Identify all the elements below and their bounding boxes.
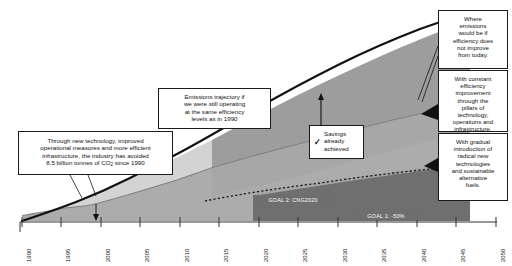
goal-band-50-percent: GOAL 1: -50%	[352, 211, 420, 220]
x-tick-2050: 2050	[500, 249, 506, 262]
callout-savings-achieved-line1: Through new technology, improved	[22, 137, 169, 144]
leader-achieved-1	[70, 175, 82, 198]
callout-savings-line3: achieved	[324, 145, 360, 152]
callout-r3-line6: alternative	[442, 174, 504, 181]
callout-r1-line4: efficiency does	[442, 37, 504, 44]
callout-savings-achieved-line4-post: since 1990	[113, 159, 145, 166]
callout-savings-achieved-line2: operational measures and more efficient	[22, 144, 169, 151]
callout-savings-line1: Savings	[324, 130, 360, 137]
callout-r3-line4: technologies	[442, 160, 504, 167]
leader-achieved-2	[88, 175, 96, 196]
callout-r1-line5: not improve	[442, 44, 504, 51]
callout-emissions-trajectory-line1: Emissions trajectory if	[162, 93, 267, 100]
callout-no-efficiency-improvement: Where emissions would be if efficiency d…	[438, 10, 508, 69]
callout-constant-efficiency-improvement: With constant efficiency improvement thr…	[438, 70, 508, 132]
x-tick-2005: 2005	[144, 249, 150, 262]
callout-r3-line2: introduction of	[442, 145, 504, 152]
callout-r2-line7: operations and	[442, 118, 504, 125]
x-tick-2040: 2040	[421, 249, 427, 262]
callout-r1-line6: from today.	[442, 51, 504, 58]
callout-r1-line2: emissions	[442, 22, 504, 29]
callout-savings-achieved-line3: infrastructure, the industry has avoided	[22, 152, 169, 159]
callout-savings-achieved: Through new technology, improved operati…	[18, 131, 173, 175]
x-tick-1990: 1990	[26, 249, 32, 262]
check-icon: ✓	[314, 137, 321, 148]
callout-r2-line6: technology,	[442, 111, 504, 118]
goal-band-cng2020-label: GOAL 2: CNG2020	[268, 197, 317, 203]
callout-r3-line1: With gradual	[442, 138, 504, 145]
callout-emissions-trajectory-line3: at the same efficiency	[162, 108, 267, 115]
x-tick-2025: 2025	[302, 249, 308, 262]
x-tick-2015: 2015	[223, 249, 229, 262]
x-tick-2000: 2000	[105, 249, 111, 262]
callout-r3-line3: radical new	[442, 152, 504, 159]
callout-r1-line3: would be if	[442, 29, 504, 36]
callout-emissions-trajectory-line2: we were still operating	[162, 100, 267, 107]
x-tick-2020: 2020	[263, 249, 269, 262]
callout-savings-achieved-line4-pre: 8.5 billion tonnes of CO	[46, 159, 110, 166]
callout-savings-line2: already	[324, 137, 360, 144]
callout-radical-new-technologies: With gradual introduction of radical new…	[438, 133, 508, 201]
callout-r2-line3: improvement	[442, 89, 504, 96]
callout-r2-line2: efficiency	[442, 82, 504, 89]
callout-r3-line7: fuels.	[442, 181, 504, 188]
callout-savings-achieved-line4: 8.5 billion tonnes of CO2 since 1990	[22, 159, 169, 168]
goal-band-50-percent-label: GOAL 1: -50%	[367, 213, 404, 219]
x-tick-1995: 1995	[65, 249, 71, 262]
callout-r2-line8: infrastructure.	[442, 125, 504, 132]
callout-r2-line1: With constant	[442, 75, 504, 82]
chart-canvas: 1990 1995 2000 2005 2010 2015 2020 2025 …	[0, 0, 512, 266]
callout-emissions-trajectory: Emissions trajectory if we were still op…	[158, 88, 271, 129]
callout-savings-already-achieved: ✓ Savings already achieved	[309, 125, 364, 159]
x-tick-2035: 2035	[381, 249, 387, 262]
callout-r2-line4: through the	[442, 97, 504, 104]
x-tick-2045: 2045	[460, 249, 466, 262]
callout-r2-line5: pillars of	[442, 104, 504, 111]
callout-r1-line1: Where	[442, 15, 504, 22]
callout-emissions-trajectory-line4: levels as in 1990	[162, 115, 267, 122]
callout-r3-line5: and sustainable	[442, 167, 504, 174]
x-tick-2030: 2030	[342, 249, 348, 262]
x-tick-2010: 2010	[184, 249, 190, 262]
goal-band-cng2020: GOAL 2: CNG2020	[253, 195, 333, 204]
